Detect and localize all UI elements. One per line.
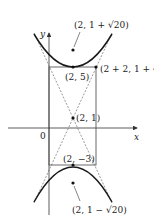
corner-label: (2 + 2, 1 + 4) <box>100 64 154 74</box>
hyperbola-diagram: (2, 1 + √20) (2, 5) (2 + 2, 1 + 4) (2, 1… <box>0 0 154 224</box>
upper-vertex-point <box>71 65 74 68</box>
x-axis-label: x <box>134 132 139 142</box>
center-label: (2, 1) <box>76 113 100 123</box>
upper-vertex-label: (2, 5) <box>65 72 89 82</box>
origin-label: 0 <box>40 131 46 141</box>
upper-focus-label: (2, 1 + √20) <box>74 20 129 30</box>
upper-focus-leader <box>74 32 80 47</box>
y-axis-label: y <box>39 29 46 39</box>
lower-vertex-label: (2, −3) <box>63 154 95 164</box>
center-point <box>71 116 74 119</box>
lower-focus-label: (2, 1 − √20) <box>72 205 127 215</box>
corner-point <box>94 65 97 68</box>
lower-focus-point <box>71 181 74 184</box>
upper-focus-point <box>71 48 74 51</box>
lower-focus-leader <box>74 186 80 201</box>
diagram-canvas: (2, 1 + √20) (2, 5) (2 + 2, 1 + 4) (2, 1… <box>0 0 154 224</box>
